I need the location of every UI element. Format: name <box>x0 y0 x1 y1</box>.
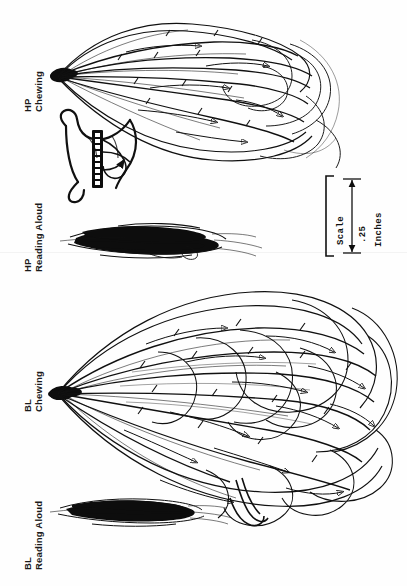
panel-label-subject: HP <box>22 203 33 272</box>
panel-label-subject: HP <box>22 71 33 112</box>
panel-label-task: Reading Aloud <box>33 501 44 570</box>
panel-label-bl-reading-aloud: BL Reading Aloud <box>22 501 44 570</box>
scale-bar-value: .25 <box>358 226 368 243</box>
panel-label-task: Chewing <box>33 371 44 412</box>
panel-label-subject: BL <box>22 371 33 412</box>
tooth-row <box>92 130 103 188</box>
figure-svg <box>0 0 407 586</box>
mandible-outline <box>61 110 136 202</box>
scale-bar-unit: Inches <box>374 212 384 247</box>
tracing-hp-reading-aloud <box>60 224 262 260</box>
scale-bar-caption: Scale <box>336 216 346 245</box>
panel-label-hp-reading-aloud: HP Reading Aloud <box>22 203 44 272</box>
panel-label-hp-chewing: HP Chewing <box>22 71 44 112</box>
figure-canvas: HP Chewing HP Reading Aloud BL Chewing B… <box>0 0 407 586</box>
panel-label-task: Chewing <box>33 71 44 112</box>
panel-label-subject: BL <box>22 501 33 570</box>
panel-label-bl-chewing: BL Chewing <box>22 371 44 412</box>
panel-label-task: Reading Aloud <box>33 203 44 272</box>
tracing-bl-chewing <box>48 292 397 526</box>
scan-artifact-line <box>0 252 407 253</box>
tracing-bl-reading-aloud <box>50 499 232 526</box>
